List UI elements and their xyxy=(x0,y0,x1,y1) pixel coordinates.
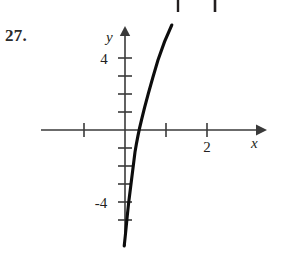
y-tick-label--4: -4 xyxy=(95,195,108,211)
y-axis-label: y xyxy=(104,29,113,45)
page-artifact-marks xyxy=(178,0,215,12)
y-tick-label-4: 4 xyxy=(100,51,108,67)
x-axis-arrow-icon xyxy=(256,125,267,136)
x-axis-label: x xyxy=(250,135,258,151)
y-axis-arrow-icon xyxy=(120,26,130,36)
coordinate-plot: y x 4 -4 2 xyxy=(0,0,290,255)
x-tick-label-2: 2 xyxy=(203,139,211,155)
figure-root: 27. xyxy=(0,0,290,255)
x-axis xyxy=(41,125,267,136)
